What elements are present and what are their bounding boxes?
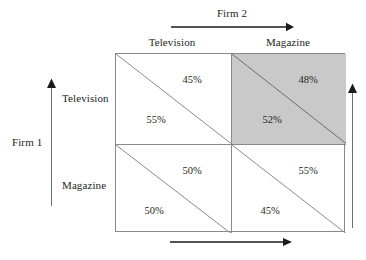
cell-diagonal-icon [232, 145, 346, 234]
cell-magazine-tv-lower-left-value: 50% [144, 204, 163, 215]
cell-magazine-tv-upper-right-value: 50% [182, 164, 201, 175]
column-axis-right-arrow-icon [170, 21, 295, 33]
row-header-television: Television [62, 92, 109, 104]
matrix-cell-tv-tv[interactable]: 45% 55% [116, 54, 231, 144]
cell-tv-tv-lower-left-value: 55% [146, 114, 165, 125]
cell-diagonal-icon [232, 54, 346, 144]
payoff-matrix: 45% 55% 48% 52% 50% 50% 55% 45% [115, 53, 345, 232]
cell-tv-magazine-upper-right-value: 48% [298, 74, 317, 85]
diagram-canvas: Firm 2 Television Magazine Firm 1 Televi… [0, 0, 366, 260]
row-axis-title: Firm 1 [12, 136, 42, 148]
right-axis-line [352, 88, 353, 228]
column-header-magazine: Magazine [266, 36, 310, 48]
cell-magazine-magazine-upper-right-value: 55% [298, 164, 317, 175]
matrix-cell-tv-magazine[interactable]: 48% 52% [231, 54, 346, 144]
cell-diagonal-icon [116, 145, 231, 234]
matrix-cell-magazine-tv[interactable]: 50% 50% [116, 144, 231, 234]
right-up-arrow-icon [346, 83, 359, 97]
column-header-television: Television [149, 36, 196, 48]
row-axis-up-arrow-icon [45, 78, 58, 92]
column-axis-title: Firm 2 [217, 7, 247, 19]
cell-tv-magazine-lower-left-value: 52% [262, 114, 281, 125]
cell-diagonal-icon [116, 54, 231, 144]
cell-tv-tv-upper-right-value: 45% [182, 74, 201, 85]
row-header-magazine: Magazine [62, 179, 106, 191]
cell-magazine-magazine-lower-left-value: 45% [260, 204, 279, 215]
bottom-right-arrow-icon [169, 236, 293, 248]
matrix-cell-magazine-magazine[interactable]: 55% 45% [231, 144, 346, 234]
row-axis-line [51, 82, 52, 206]
